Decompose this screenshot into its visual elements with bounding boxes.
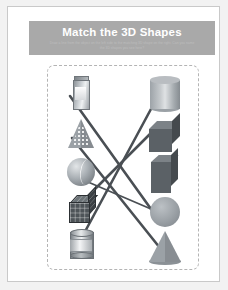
list-item[interactable] <box>58 116 104 152</box>
carton-icon <box>71 76 91 108</box>
left-column <box>58 66 104 269</box>
list-item[interactable] <box>58 226 104 262</box>
page-title: Match the 3D Shapes <box>62 26 181 39</box>
list-item[interactable] <box>142 118 188 154</box>
list-item[interactable] <box>58 74 104 110</box>
prism-icon <box>151 155 180 193</box>
page-sheet: Match the 3D Shapes Draw a line from the… <box>7 6 220 282</box>
right-column <box>142 66 188 269</box>
activity-area <box>47 65 199 270</box>
rubik-cube-icon <box>67 195 95 222</box>
list-item[interactable] <box>142 194 188 230</box>
worksheet-page: Match the 3D Shapes Draw a line from the… <box>0 0 228 290</box>
title-banner: Match the 3D Shapes Draw a line from the… <box>29 21 215 55</box>
list-item[interactable] <box>58 190 104 226</box>
page-subtitle: Draw a line from the object on the left … <box>47 41 197 50</box>
sphere-icon <box>150 197 180 227</box>
tin-can-icon <box>70 229 92 259</box>
cylinder-icon <box>150 76 180 112</box>
list-item[interactable] <box>58 154 104 190</box>
party-hat-icon <box>68 119 94 149</box>
list-item[interactable] <box>142 230 188 266</box>
cone-icon <box>149 231 181 265</box>
cube-icon <box>149 121 181 152</box>
list-item[interactable] <box>142 156 188 192</box>
ball-icon <box>67 158 95 186</box>
list-item[interactable] <box>142 76 188 112</box>
